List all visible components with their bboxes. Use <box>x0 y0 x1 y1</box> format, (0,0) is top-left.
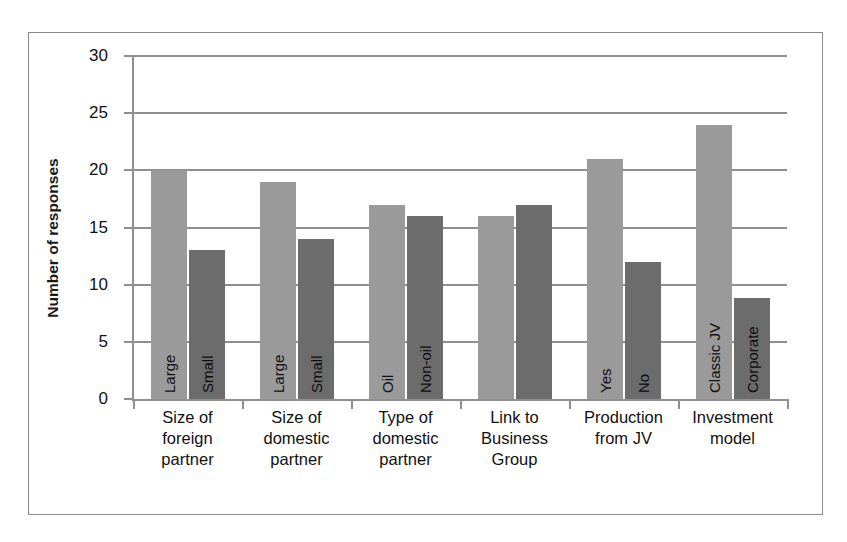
x-category-label-line: partner <box>133 449 242 470</box>
x-category-label-line: from JV <box>569 428 678 449</box>
plot-area: 051015202530 LargeSmallLargeSmallOilNon-… <box>133 56 787 399</box>
bar-label: Small <box>198 355 215 393</box>
bar[interactable] <box>516 205 552 399</box>
bar-label: Classic JV <box>705 323 722 393</box>
bar-label: Non-oil <box>416 345 433 393</box>
y-tick-label: 25 <box>89 103 108 123</box>
bar-label: Large <box>160 355 177 393</box>
x-category-label-line: domestic <box>242 428 351 449</box>
bar[interactable]: Large <box>260 182 296 399</box>
chart-figure-frame: Number of responses 051015202530 LargeSm… <box>28 32 823 515</box>
x-category-label-line: foreign <box>133 428 242 449</box>
bar[interactable]: Classic JV <box>696 125 732 399</box>
x-category-label: Type ofdomesticpartner <box>351 407 460 470</box>
bar[interactable]: Yes <box>587 159 623 399</box>
y-tick-label: 15 <box>89 218 108 238</box>
x-category-label: Productionfrom JV <box>569 407 678 449</box>
bar-label: Corporate <box>743 326 760 393</box>
gridline <box>133 341 787 343</box>
y-tick <box>124 284 134 286</box>
y-tick <box>124 227 134 229</box>
bar[interactable]: Large <box>151 170 187 399</box>
bar[interactable]: Small <box>189 250 225 399</box>
y-tick-label: 20 <box>89 160 108 180</box>
bar[interactable]: No <box>625 262 661 399</box>
x-category-label-line: Production <box>569 407 678 428</box>
y-tick <box>124 169 134 171</box>
x-axis-category-labels: Size offoreignpartnerSize ofdomesticpart… <box>133 407 787 502</box>
y-tick-label: 0 <box>99 389 108 409</box>
gridline <box>133 55 787 57</box>
x-category-label-line: model <box>678 428 787 449</box>
y-axis-title-text: Number of responses <box>44 158 62 317</box>
x-category-label-line: Size of <box>133 407 242 428</box>
x-category-label-line: partner <box>351 449 460 470</box>
gridline <box>133 227 787 229</box>
bar[interactable]: Corporate <box>734 298 770 399</box>
bar-label: Yes <box>596 369 613 393</box>
y-tick <box>124 55 134 57</box>
bar-label: Large <box>269 355 286 393</box>
y-tick <box>124 341 134 343</box>
x-category-label-line: Size of <box>242 407 351 428</box>
x-category-label-line: Type of <box>351 407 460 428</box>
bar[interactable]: Small <box>298 239 334 399</box>
x-category-label: Link toBusinessGroup <box>460 407 569 470</box>
x-category-label-line: Group <box>460 449 569 470</box>
gridline <box>133 112 787 114</box>
y-tick-label: 5 <box>99 332 108 352</box>
y-tick <box>124 112 134 114</box>
x-category-label-line: partner <box>242 449 351 470</box>
bar[interactable]: Oil <box>369 205 405 399</box>
gridline <box>133 284 787 286</box>
bar-label: Small <box>307 355 324 393</box>
x-category-label: Size ofdomesticpartner <box>242 407 351 470</box>
x-category-label-line: Link to <box>460 407 569 428</box>
y-tick-label: 30 <box>89 46 108 66</box>
x-category-label-line: domestic <box>351 428 460 449</box>
bar-label: No <box>634 374 651 393</box>
x-category-label: Size offoreignpartner <box>133 407 242 470</box>
x-tick <box>787 399 789 409</box>
x-category-label: Investmentmodel <box>678 407 787 449</box>
bar-label: Oil <box>378 375 395 393</box>
gridline <box>133 169 787 171</box>
y-axis-title: Number of responses <box>43 73 63 403</box>
x-category-label-line: Investment <box>678 407 787 428</box>
y-tick-label: 10 <box>89 275 108 295</box>
bar[interactable] <box>478 216 514 399</box>
y-axis-line <box>132 56 134 401</box>
x-category-label-line: Business <box>460 428 569 449</box>
bar[interactable]: Non-oil <box>407 216 443 399</box>
